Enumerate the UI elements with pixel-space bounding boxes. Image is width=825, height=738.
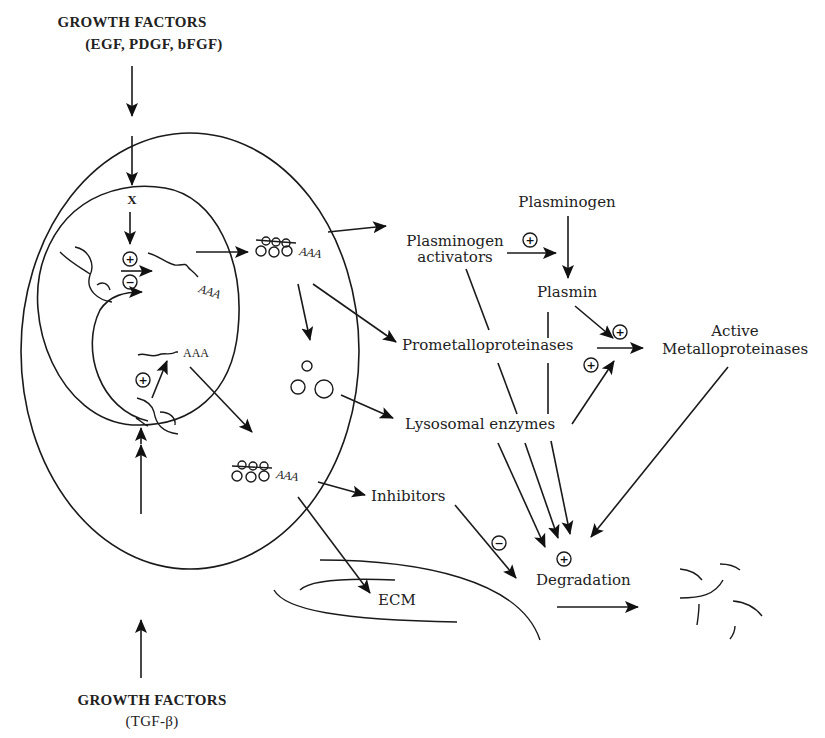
inhibitors-label: Inhibitors	[371, 487, 445, 505]
dna-strand-icon	[60, 252, 90, 274]
plasmin-to-activation-arrow	[575, 306, 613, 338]
active-mmp-to-degradation-arrow	[591, 367, 728, 537]
ecm-fiber	[300, 579, 395, 590]
polysome-2-polya-label: AAA	[275, 467, 300, 484]
active-mmp-label-line1: Active	[710, 322, 759, 340]
induction-arrow	[152, 361, 167, 398]
degraded-fragments-icon	[680, 564, 762, 639]
degradation-label: Degradation	[536, 571, 631, 589]
top-growth-factors-label: GROWTH FACTORS (EGF, PDGF, bFGF)	[57, 14, 222, 53]
ecm-fiber	[320, 560, 540, 640]
mrna-polya-label: AAA	[196, 281, 223, 302]
svg-text:+: +	[615, 326, 624, 339]
dna-strand-icon	[75, 247, 112, 302]
bottom-growth-factors-label: GROWTH FACTORS (TGF-β)	[77, 692, 226, 730]
plasminogen-label: Plasminogen	[518, 193, 616, 211]
prommp-to-lyso-line	[498, 363, 517, 414]
polysome-2-icon	[232, 461, 272, 482]
inhibition-sign-icon: −	[492, 536, 506, 550]
mrna-polya-label: AAA	[183, 346, 209, 360]
svg-text:−: −	[494, 537, 503, 550]
inhibitors-to-degradation-arrow	[455, 505, 516, 578]
ecm-label: ECM	[378, 591, 416, 609]
nucleus	[38, 186, 239, 425]
svg-text:+: +	[125, 253, 134, 266]
transcription-factor-x: X	[127, 192, 137, 207]
prometalloproteinases-label: Prometalloproteinases	[402, 336, 573, 354]
plasminogen-activators-label-line2: activators	[417, 248, 493, 266]
lyso-activation-sign-icon: +	[584, 358, 598, 372]
svg-text:−: −	[125, 276, 134, 289]
ecm-fiber	[274, 590, 457, 622]
active-mmp-label-line2: Metalloproteinases	[662, 340, 808, 358]
degradation-sign-icon: +	[557, 552, 571, 566]
polysome-1-polya-label: AAA	[298, 244, 323, 261]
bottom-growth-factors-title: GROWTH FACTORS	[77, 692, 226, 708]
plasmin-label: Plasmin	[537, 283, 598, 301]
svg-text:+: +	[586, 359, 595, 372]
to-degradation-arrow-2	[525, 443, 558, 538]
feedback-loop-arrow	[92, 292, 148, 421]
svg-text:+: +	[559, 553, 568, 566]
mrna-export-2-arrow	[190, 367, 252, 432]
induction-sign-icon: +	[136, 373, 150, 387]
to-lysosomes-arrow	[298, 284, 310, 340]
to-inhibitors-arrow	[318, 482, 365, 495]
svg-text:+: +	[525, 234, 534, 247]
to-degradation-arrow-1	[498, 443, 545, 547]
activation-sign-icon: +	[123, 252, 137, 266]
mrna-strand-icon	[138, 352, 178, 356]
to-prometalloproteinases-arrow	[313, 284, 396, 342]
top-growth-factors-title: GROWTH FACTORS	[57, 14, 206, 30]
lysosome-vesicles-icon	[291, 361, 333, 398]
repression-sign-icon: −	[123, 275, 137, 289]
diagram-canvas: GROWTH FACTORS (EGF, PDGF, bFGF) X + − A…	[0, 0, 825, 738]
polysome-1-icon	[256, 237, 296, 257]
mrna-strand-icon	[148, 253, 198, 277]
to-plasminogen-activators-arrow	[328, 226, 386, 232]
to-degradation-arrow-3	[551, 441, 570, 534]
svg-text:+: +	[138, 374, 147, 387]
lysosomal-enzymes-label: Lysosomal enzymes	[405, 415, 555, 433]
top-growth-factors-subtitle: (EGF, PDGF, bFGF)	[85, 36, 222, 53]
bottom-growth-factors-subtitle: (TGF-β)	[125, 713, 178, 730]
plasmin-activation-sign-icon: +	[613, 325, 627, 339]
pa-activation-sign-icon: +	[523, 233, 537, 247]
pa-to-prommp-line	[466, 269, 489, 330]
dna-strand-icon	[97, 283, 110, 290]
to-lysosomal-enzymes-arrow	[341, 395, 393, 418]
